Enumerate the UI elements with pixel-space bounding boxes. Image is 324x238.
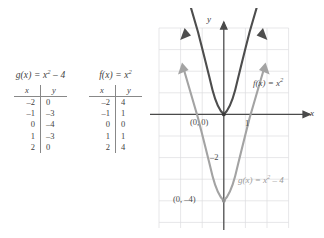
f-cell-y: 4	[116, 142, 143, 153]
table-row: –1 –3	[14, 108, 67, 119]
curve-f-equation-text: f(x) = x	[253, 78, 280, 88]
g-cell-x: 1	[14, 131, 41, 142]
vertex-f-label: (0, 0)	[190, 117, 208, 127]
curve-g-arrow-left	[178, 63, 189, 75]
vertex-f-dot	[222, 113, 226, 117]
math-figure: g(x) = x2 – 4 x y –2 0 –1 –3 0 –4	[0, 0, 324, 238]
f-caption-text: f(x) = x	[99, 70, 128, 80]
f-cell-y: 1	[116, 131, 143, 142]
coordinate-graph: y x (0, 0) 1 –2 (0, –4) f(x) = x2 g(x) =…	[150, 8, 324, 238]
f-header-y: y	[116, 85, 143, 97]
g-function-caption: g(x) = x2 – 4	[16, 70, 66, 80]
g-cell-x: –1	[14, 108, 41, 119]
f-cell-x: 1	[89, 131, 116, 142]
f-cell-y: 0	[116, 119, 143, 130]
g-cell-y: –3	[41, 108, 68, 119]
table-header-row: x y	[89, 85, 142, 97]
x-axis-label: x	[310, 108, 314, 118]
curve-g-equation-tail: – 4	[270, 175, 284, 185]
table-row: 1 –3	[14, 131, 67, 142]
g-caption-text: g(x) = x	[16, 70, 47, 80]
table-row: 2 0	[14, 142, 67, 153]
f-table-block: f(x) = x2 x y –2 4 –1 1 0 0	[89, 70, 142, 153]
g-caption-tail: – 4	[51, 70, 66, 80]
g-header-y: y	[41, 85, 68, 97]
table-row: –2 0	[14, 97, 67, 109]
g-cell-y: 0	[41, 97, 68, 109]
f-function-caption: f(x) = x2	[99, 70, 132, 80]
g-cell-x: –2	[14, 97, 41, 109]
curve-g-arrow-right	[259, 63, 270, 75]
g-cell-y: –3	[41, 131, 68, 142]
f-cell-y: 1	[116, 108, 143, 119]
g-table-block: g(x) = x2 – 4 x y –2 0 –1 –3 0 –4	[14, 70, 67, 153]
f-cell-x: –1	[89, 108, 116, 119]
table-row: –1 1	[89, 108, 142, 119]
f-header-x: x	[89, 85, 116, 97]
f-cell-x: 2	[89, 142, 116, 153]
table-row: 2 4	[89, 142, 142, 153]
f-cell-x: 0	[89, 119, 116, 130]
f-cell-x: –2	[89, 97, 116, 109]
table-row: –2 4	[89, 97, 142, 109]
f-caption-exponent: 2	[129, 68, 132, 75]
y-axis-arrow	[221, 22, 227, 29]
table-row: 1 1	[89, 131, 142, 142]
g-header-x: x	[14, 85, 41, 97]
g-table: x y –2 0 –1 –3 0 –4 1 –3	[14, 85, 67, 153]
table-header-row: x y	[14, 85, 67, 97]
table-row: 0 0	[89, 119, 142, 130]
curve-f-equation-exponent: 2	[280, 76, 283, 83]
f-table: x y –2 4 –1 1 0 0 1 1	[89, 85, 142, 153]
x-axis-arrow	[303, 111, 310, 117]
vertex-g-dot	[222, 199, 226, 203]
tick-one-label: 1	[245, 118, 249, 128]
curve-f-arrow-left	[180, 28, 191, 40]
curve-g-equation-text: g(x) = x	[238, 175, 267, 185]
y-axis-label: y	[207, 14, 211, 24]
g-cell-x: 0	[14, 119, 41, 130]
g-cell-y: –4	[41, 119, 68, 130]
curve-f-equation-label: f(x) = x2	[253, 78, 283, 88]
tick-neg-two-label: –2	[210, 152, 219, 162]
curve-f-arrow-right	[257, 28, 268, 40]
vertex-g-label: (0, –4)	[173, 194, 196, 204]
f-cell-y: 4	[116, 97, 143, 109]
value-tables: g(x) = x2 – 4 x y –2 0 –1 –3 0 –4	[0, 70, 150, 153]
g-cell-x: 2	[14, 142, 41, 153]
curve-g-equation-label: g(x) = x2 – 4	[238, 175, 284, 185]
g-cell-y: 0	[41, 142, 68, 153]
table-row: 0 –4	[14, 119, 67, 130]
